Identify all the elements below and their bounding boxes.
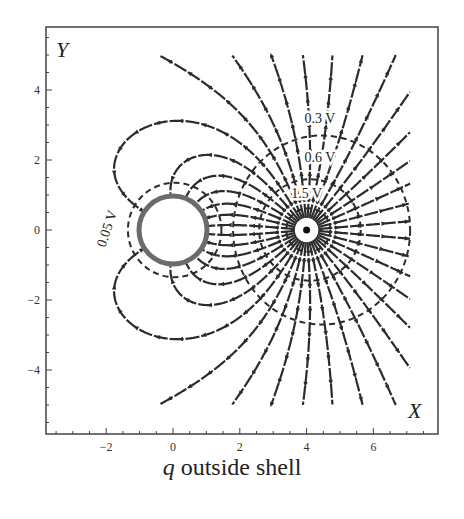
arrow-icon [327,248,332,253]
arrow-icon [335,225,340,229]
arrow-icon [362,280,367,285]
y-tick-label: 2 [34,153,40,167]
figure-caption: q outside shell [0,454,464,481]
arrow-icon [250,232,255,236]
field-plot: 0.05 V0.3 V0.6 V1.5 V −20246420−2−4 Y X [0,0,464,519]
arrow-icon [323,331,327,336]
arrow-icon [284,150,288,155]
arrow-icon [339,129,343,134]
arrow-icon [228,243,233,247]
arrow-icon [396,314,401,319]
field-line [317,161,410,224]
arrow-icon [273,230,278,234]
arrow-icon [308,309,312,314]
y-axis-letter: Y [56,37,71,62]
arrow-icon [306,97,310,102]
arrow-icon [178,337,183,341]
field-line [317,236,410,299]
x-tick-label: −2 [100,440,113,454]
field-line [114,121,300,220]
arrow-icon [308,171,312,176]
arrow-icon [396,141,401,146]
arrow-icon [250,224,255,228]
y-tick-label: −4 [27,363,40,377]
arrow-icon [284,305,288,310]
arrow-icon [270,53,274,58]
equipotential-label: 1.5 V [291,186,322,201]
arrow-icon [227,223,232,227]
equipotential-label: 0.6 V [305,150,336,165]
y-tick-label: 0 [34,223,40,237]
arrow-icon [178,119,183,123]
point-charge-q [303,227,310,234]
arrow-icon [171,176,175,181]
field-line [311,241,363,404]
arrow-icon [307,333,311,338]
conducting-shell [139,196,207,264]
arrow-icon [227,233,232,237]
arrow-icon [208,252,213,256]
arrow-icon [306,357,310,362]
arrow-icon [281,248,286,253]
arrow-icon [316,283,320,288]
field-line [318,221,410,229]
arrow-icon [254,208,259,212]
arrow-icon [291,282,295,287]
arrow-icon [208,204,213,208]
x-axis-letter: X [407,398,423,423]
arrow-icon [352,373,356,378]
arrow-icon [197,178,202,182]
arrow-icon [306,260,310,265]
arrow-icon [299,284,303,289]
arrow-icon [315,257,319,262]
arrow-icon [254,248,259,252]
field-line [318,231,410,239]
arrow-icon [362,175,367,180]
arrow-icon [299,171,303,176]
arrow-icon [273,225,278,229]
arrow-icon [332,303,336,308]
arrow-icon [328,75,332,80]
equipotential-labels: 0.05 V0.3 V0.6 V1.5 V [94,111,335,249]
arrow-icon [324,280,328,285]
arrow-icon [207,153,212,157]
field-line [114,240,300,339]
arrow-icon [278,379,282,384]
arrow-icon [207,303,212,307]
arrow-icon [291,173,295,178]
x-tick-label: 2 [237,440,243,454]
caption-symbol: q [163,454,175,480]
arrow-icon [270,402,274,407]
y-tick-label: −2 [27,293,40,307]
y-tick-label: 4 [34,83,40,97]
equipotential-label: 0.3 V [305,111,336,126]
arrow-icon [339,326,343,331]
arrow-icon [171,279,175,284]
arrow-icon [134,326,139,331]
arrow-icon [291,123,295,128]
arrow-icon [327,207,332,212]
field-line [317,184,410,226]
field-line [317,235,410,277]
arrow-icon [316,172,320,177]
arrow-icon [375,197,380,201]
arrow-icon [308,284,312,289]
arrow-icon [375,259,380,263]
arrow-icon [197,278,202,282]
x-tick-label: 4 [304,440,310,454]
x-tick-label: 0 [170,440,176,454]
x-tick-label: 6 [370,440,376,454]
arrow-icon [352,82,356,87]
arrow-icon [228,213,233,217]
arrow-icon [335,230,340,234]
caption-text: outside shell [175,454,302,480]
arrow-icon [328,380,332,385]
arrow-icon [278,76,282,81]
arrow-icon [134,129,139,134]
equipotential-label: 0.05 V [94,208,120,249]
arrow-icon [291,332,295,337]
arrow-icon [324,175,328,180]
arrow-icon [281,208,286,213]
